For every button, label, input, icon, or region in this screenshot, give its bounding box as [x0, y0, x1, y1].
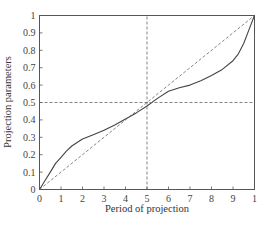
x-tick-label: 3 — [102, 193, 107, 204]
x-tick-label: 9 — [231, 193, 236, 204]
y-axis-label: Projection parameters — [2, 56, 13, 148]
y-tick-label: 0.7 — [23, 62, 36, 73]
x-tick-label: 7 — [188, 193, 193, 204]
y-tick-label: 0.8 — [23, 45, 36, 56]
series-group — [40, 16, 255, 190]
y-tick-label: 0.3 — [23, 132, 36, 143]
x-axis-label: Period of projection — [105, 203, 190, 214]
x-tick-label: 5 — [145, 193, 150, 204]
x-tick-label: 0 — [37, 193, 42, 204]
y-tick-label: 0.5 — [23, 97, 36, 108]
y-tick-label: 0.2 — [23, 149, 36, 160]
x-tick-label: 1 — [59, 193, 64, 204]
x-tick-label: 6 — [166, 193, 171, 204]
y-tick-label: 0.9 — [23, 27, 36, 38]
x-tick-label: 4 — [123, 193, 128, 204]
x-tick-label: 2 — [80, 193, 85, 204]
y-tick-label: 0.6 — [23, 80, 36, 91]
y-tick-label: 0.4 — [23, 114, 36, 125]
y-tick-label: 0.1 — [23, 167, 36, 178]
y-tick-label: 0 — [31, 184, 36, 195]
x-tick-label: 1 — [252, 193, 257, 204]
x-tick-label: 8 — [209, 193, 214, 204]
chart-svg: 01234567891 00.10.20.30.40.50.60.70.80.9… — [0, 0, 266, 226]
y-tick-label: 1 — [31, 10, 36, 21]
